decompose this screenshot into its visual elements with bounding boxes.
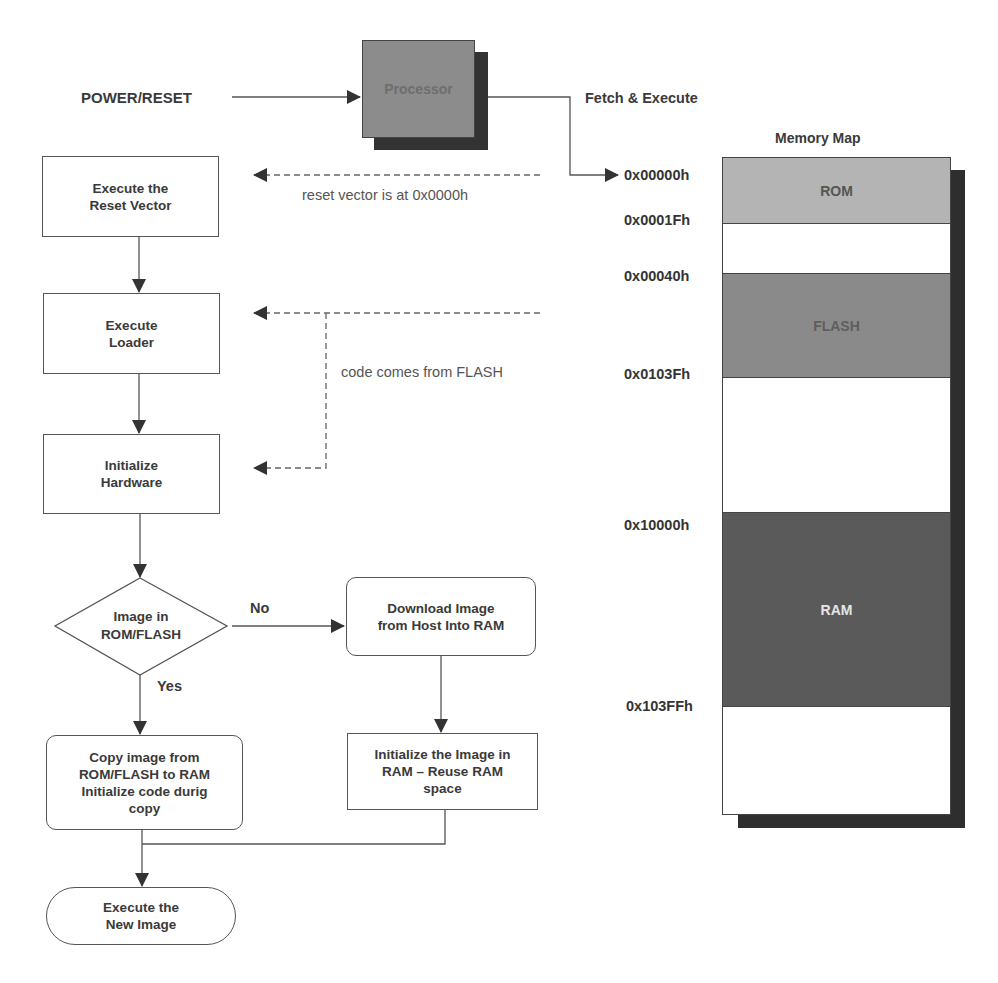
memory-region-ram: RAM	[723, 513, 950, 707]
no-label: No	[250, 600, 269, 616]
execute-loader-box: Execute Loader	[43, 293, 220, 374]
execute-new-image-box: Execute the New Image	[46, 887, 236, 945]
address-label: 0x00000h	[624, 167, 689, 183]
initialize-image-in-ram-box: Initialize the Image in RAM – Reuse RAM …	[347, 733, 538, 810]
memory-region-gap	[723, 378, 950, 513]
decision-image-in-rom-flash: Image in ROM/FLASH	[55, 608, 227, 644]
execute-reset-vector-box: Execute the Reset Vector	[42, 156, 219, 237]
memory-map: ROM FLASH RAM	[722, 157, 951, 815]
flash-label: FLASH	[813, 318, 860, 334]
address-label: 0x00040h	[624, 268, 689, 284]
download-image-box: Download Image from Host Into RAM	[346, 577, 536, 656]
address-label: 0x103FFh	[626, 698, 693, 714]
memory-region-flash: FLASH	[723, 274, 950, 378]
initialize-hardware-box: Initialize Hardware	[43, 434, 220, 514]
memory-region-gap	[723, 224, 950, 274]
address-label: 0x0001Fh	[624, 212, 690, 228]
memory-region-rom: ROM	[723, 158, 950, 224]
ram-label: RAM	[821, 602, 853, 618]
address-label: 0x10000h	[624, 517, 689, 533]
code-from-flash-annotation: code comes from FLASH	[341, 364, 503, 380]
memory-map-title: Memory Map	[775, 130, 861, 146]
power-reset-label: POWER/RESET	[81, 89, 192, 106]
processor-label: Processor	[384, 81, 452, 97]
copy-image-box: Copy image from ROM/FLASH to RAM Initial…	[46, 735, 243, 830]
processor-block: Processor	[362, 40, 475, 138]
address-label: 0x0103Fh	[624, 366, 690, 382]
rom-label: ROM	[820, 183, 853, 199]
yes-label: Yes	[157, 678, 182, 694]
reset-vector-annotation: reset vector is at 0x0000h	[302, 187, 468, 203]
memory-region-gap	[723, 707, 950, 815]
fetch-execute-label: Fetch & Execute	[585, 90, 698, 106]
